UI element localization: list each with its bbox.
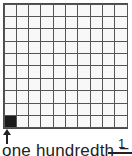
shaded-cell xyxy=(4,115,17,128)
grid-cell xyxy=(28,78,41,91)
grid-cell xyxy=(90,78,103,91)
grid-cell xyxy=(114,41,127,54)
grid-cell xyxy=(53,16,66,29)
grid-cell xyxy=(114,28,127,41)
grid-cell xyxy=(102,41,115,54)
grid-cell xyxy=(90,65,103,78)
grid-cell xyxy=(40,41,53,54)
grid-cell xyxy=(102,115,115,128)
grid-cell xyxy=(28,41,41,54)
grid-cell xyxy=(65,90,78,103)
grid-cell xyxy=(90,4,103,17)
grid-cell xyxy=(90,115,103,128)
grid-cell xyxy=(4,65,17,78)
grid-cell xyxy=(90,16,103,29)
grid-cell xyxy=(77,115,90,128)
grid-cell xyxy=(16,103,29,116)
grid-cell xyxy=(114,90,127,103)
grid-cell xyxy=(114,53,127,66)
grid-cell xyxy=(40,65,53,78)
grid-cell xyxy=(53,90,66,103)
grid-cell xyxy=(28,90,41,103)
grid-cell xyxy=(102,16,115,29)
fraction-bar xyxy=(108,152,132,154)
grid-cell xyxy=(16,16,29,29)
grid-cell xyxy=(90,103,103,116)
fraction-numerator: 1 xyxy=(118,136,125,151)
grid-cell xyxy=(53,115,66,128)
grid-cell xyxy=(77,65,90,78)
grid-cell xyxy=(53,41,66,54)
grid-cell xyxy=(65,103,78,116)
grid-cell xyxy=(4,78,17,91)
grid-cell xyxy=(40,103,53,116)
hundred-grid xyxy=(3,3,128,129)
caption-label: one hundredth = xyxy=(2,141,129,156)
grid-cell xyxy=(16,78,29,91)
grid-cell xyxy=(77,16,90,29)
grid-cell xyxy=(114,78,127,91)
grid-cell xyxy=(102,103,115,116)
grid-cell xyxy=(16,53,29,66)
grid-cell xyxy=(4,90,17,103)
grid-cell xyxy=(4,28,17,41)
grid-cell xyxy=(90,28,103,41)
grid-cell xyxy=(65,28,78,41)
grid-cell xyxy=(16,28,29,41)
grid-cell xyxy=(4,41,17,54)
grid-cell xyxy=(16,115,29,128)
grid-cell xyxy=(53,78,66,91)
grid-cell xyxy=(102,90,115,103)
grid-cell xyxy=(4,16,17,29)
grid-cell xyxy=(16,90,29,103)
grid-cell xyxy=(114,115,127,128)
grid-cell xyxy=(77,90,90,103)
grid-cell xyxy=(40,28,53,41)
grid-cell xyxy=(4,4,17,17)
grid-cell xyxy=(40,78,53,91)
grid-cell xyxy=(40,4,53,17)
grid-cell xyxy=(90,41,103,54)
grid-cell xyxy=(114,65,127,78)
grid-cell xyxy=(40,53,53,66)
grid-cell xyxy=(90,90,103,103)
grid-cell xyxy=(102,4,115,17)
grid-cell xyxy=(40,115,53,128)
grid-cell xyxy=(53,53,66,66)
grid-cell xyxy=(40,16,53,29)
grid-cell xyxy=(65,78,78,91)
grid-cell xyxy=(53,4,66,17)
grid-cell xyxy=(4,53,17,66)
grid-cell xyxy=(16,65,29,78)
grid-cell xyxy=(114,103,127,116)
grid-cell xyxy=(90,53,103,66)
grid-cell xyxy=(77,78,90,91)
grid-cell xyxy=(53,65,66,78)
grid-cell xyxy=(77,103,90,116)
grid-cell xyxy=(77,41,90,54)
grid-cell xyxy=(114,16,127,29)
grid-cell xyxy=(28,28,41,41)
grid-cell xyxy=(28,53,41,66)
grid-cell xyxy=(65,41,78,54)
grid-cell xyxy=(114,4,127,17)
grid-cell xyxy=(102,65,115,78)
grid-cell xyxy=(16,4,29,17)
grid-cell xyxy=(65,16,78,29)
grid-cell xyxy=(102,28,115,41)
grid-cell xyxy=(28,4,41,17)
grid-cell xyxy=(65,4,78,17)
grid-cell xyxy=(4,103,17,116)
grid-cell xyxy=(102,53,115,66)
grid-cell xyxy=(16,41,29,54)
grid-cell xyxy=(102,78,115,91)
grid-cell xyxy=(53,103,66,116)
grid-cell xyxy=(77,4,90,17)
grid-cell xyxy=(28,16,41,29)
grid-cell xyxy=(28,115,41,128)
grid-cell xyxy=(77,28,90,41)
grid-cell xyxy=(65,65,78,78)
grid-cell xyxy=(65,53,78,66)
grid-cell xyxy=(65,115,78,128)
grid-cell xyxy=(53,28,66,41)
